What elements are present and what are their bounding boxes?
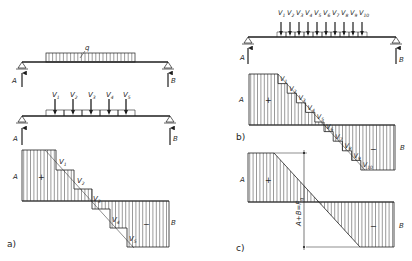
arrow-head-icon xyxy=(306,31,310,36)
shear-label-b: B xyxy=(399,222,404,230)
arrow-head-icon xyxy=(53,110,57,115)
q-leader-line xyxy=(80,51,85,58)
load-label: V2 xyxy=(70,91,78,100)
load-label: V10 xyxy=(359,9,369,18)
arrow-head-icon xyxy=(107,110,111,115)
arrow-head-icon xyxy=(315,31,319,36)
load-label: V6 xyxy=(323,9,330,18)
panel-b: V1V2V3V4V5V6V7V8V9V10 A B V1V2V3V4V5V6V7… xyxy=(236,9,405,170)
distributed-load-outline xyxy=(46,53,135,62)
reaction-label-a: A xyxy=(11,77,17,85)
arrow-head-icon xyxy=(288,31,292,36)
support-right-icon xyxy=(162,62,174,69)
shear-diagram-a: V1V2V3V4V5 A B + − a) xyxy=(7,150,176,249)
arrow-head-icon xyxy=(342,31,346,36)
panel-tag-b: b) xyxy=(236,132,245,142)
shear-label-b: B xyxy=(400,144,405,152)
negative-sign: − xyxy=(143,220,150,229)
beam-distributed-load: q A B xyxy=(11,44,176,87)
load-label: V9 xyxy=(350,9,357,18)
load-label: V1 xyxy=(280,75,287,84)
load-label: V9 xyxy=(354,152,361,161)
load-label: V1 xyxy=(59,158,67,167)
dimension-label-group: A+B=Fq xyxy=(295,198,304,227)
panel-tag-a: a) xyxy=(7,239,16,249)
arrow-head-icon xyxy=(279,31,283,36)
shear-label-a: A xyxy=(239,176,245,184)
reaction-label-a: A xyxy=(239,54,245,62)
reaction-label-b: B xyxy=(173,135,178,143)
load-label: V3 xyxy=(296,9,303,18)
shear-diagram-c: A+B=Fq A B + − c) xyxy=(236,150,404,253)
load-label: V4 xyxy=(106,91,114,100)
load-label: V10 xyxy=(363,161,373,170)
load-label: V1 xyxy=(52,91,60,100)
shear-step-labels: V1V2V3V4V5V6V7V8V9V10 xyxy=(280,75,373,170)
load-label: V4 xyxy=(308,104,315,113)
arrow-head-icon xyxy=(297,31,301,36)
load-label: V5 xyxy=(317,113,324,122)
load-label: V4 xyxy=(305,9,312,18)
arrow-head-icon xyxy=(351,31,355,36)
support-left-icon xyxy=(242,37,254,44)
shear-force-diagram: q A B V1V2V3V4V5 A B V1V2V3V4V5 xyxy=(0,0,412,261)
shear-label-a: A xyxy=(12,173,18,181)
shear-diagram-b: V1V2V3V4V5V6V7V8V9V10 A B + − b) xyxy=(236,74,405,170)
load-label: V1 xyxy=(278,9,285,18)
support-right-icon xyxy=(390,37,402,44)
load-label: V7 xyxy=(335,133,342,142)
load-label: V3 xyxy=(298,94,305,103)
load-label: V2 xyxy=(287,9,294,18)
positive-sign: + xyxy=(265,96,272,105)
positive-sign: + xyxy=(265,176,272,185)
load-label: V8 xyxy=(344,142,351,151)
dimension-label: A+B=Fq xyxy=(295,198,304,227)
distributed-load-block xyxy=(49,53,132,62)
reaction-label-b: B xyxy=(399,56,404,64)
reaction-label-a: A xyxy=(12,135,18,143)
load-label: V6 xyxy=(326,123,333,132)
arrow-head-icon xyxy=(324,31,328,36)
load-label: V7 xyxy=(332,9,339,18)
load-label: V2 xyxy=(289,85,296,94)
support-left-icon xyxy=(16,62,28,69)
load-label: V3 xyxy=(93,195,101,204)
panel-c: A+B=Fq A B + − c) xyxy=(236,150,404,253)
shear-label-b: B xyxy=(171,219,176,227)
load-label: V5 xyxy=(123,91,131,100)
panel-a: q A B V1V2V3V4V5 A B V1V2V3V4V5 xyxy=(7,44,178,249)
negative-sign: − xyxy=(370,145,377,154)
arrow-head-icon xyxy=(71,110,75,115)
arrow-head-icon xyxy=(89,110,93,115)
reaction-label-b: B xyxy=(171,77,176,85)
load-label: V8 xyxy=(341,9,348,18)
arrow-head-icon xyxy=(360,31,364,36)
beam-point-loads: V1V2V3V4V5 A B xyxy=(12,91,178,145)
panel-tag-c: c) xyxy=(236,243,244,253)
support-left-icon xyxy=(16,116,28,123)
beam-ten-point-loads: V1V2V3V4V5V6V7V8V9V10 A B xyxy=(239,9,404,64)
support-right-icon xyxy=(164,116,176,123)
arrow-head-icon xyxy=(124,110,128,115)
positive-sign: + xyxy=(38,173,45,182)
load-label: V2 xyxy=(77,177,85,186)
load-label: V3 xyxy=(88,91,96,100)
negative-sign: − xyxy=(370,222,377,231)
arrow-head-icon xyxy=(333,31,337,36)
q-label: q xyxy=(85,44,90,52)
load-label: V5 xyxy=(314,9,321,18)
dimension-tick-top xyxy=(303,152,305,154)
shear-label-a: A xyxy=(238,96,244,104)
dimension-tick-bottom xyxy=(303,246,305,248)
